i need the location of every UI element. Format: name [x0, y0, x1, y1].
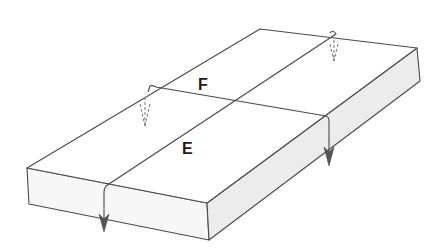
block-svg: F E	[0, 0, 442, 251]
fault-e-label: E	[182, 140, 193, 157]
fault-block-diagram: F E	[0, 0, 442, 251]
fault-f-label: F	[198, 76, 208, 93]
